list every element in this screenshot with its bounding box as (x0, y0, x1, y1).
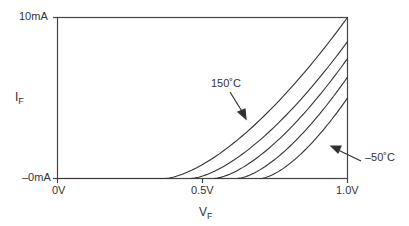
y-tick-10ma: 10mA (19, 10, 48, 22)
curve-150C (58, 18, 348, 179)
x-tick-1-0v: 1.0V (336, 184, 359, 196)
arrow-head-hot (238, 109, 246, 119)
curve-0C (237, 77, 347, 178)
temperature-curves (58, 18, 348, 179)
x-tick-0v: 0V (52, 184, 65, 196)
annotation-minus-50c: –50˚C (365, 151, 395, 163)
curve-50C (261, 98, 348, 179)
y-axis-label: IF (15, 90, 24, 106)
annotation-150c: 150˚C (211, 77, 241, 89)
y-tick-0ma: –0mA (22, 171, 51, 183)
x-axis-symbol: V (199, 205, 207, 219)
x-tick-0-5v: 0.5V (191, 184, 214, 196)
arrow-head-cold (331, 146, 341, 153)
plot-frame (53, 18, 348, 184)
x-axis-subscript: F (207, 211, 213, 221)
curve-100C (191, 42, 348, 179)
y-axis-subscript: F (18, 96, 24, 106)
x-axis-label: VF (199, 205, 213, 221)
annotation-arrows (230, 92, 361, 161)
